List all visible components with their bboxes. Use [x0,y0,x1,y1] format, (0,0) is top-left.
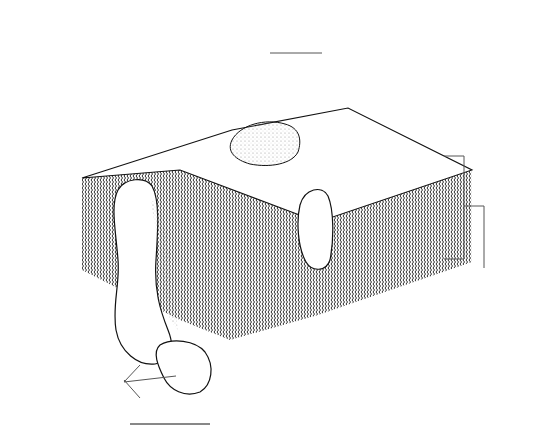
membrane-diagram [0,0,540,427]
transmembrane-protein-bottom [156,341,211,394]
transmembrane-protein-right [298,190,333,270]
proteins-leader-1 [124,365,140,382]
